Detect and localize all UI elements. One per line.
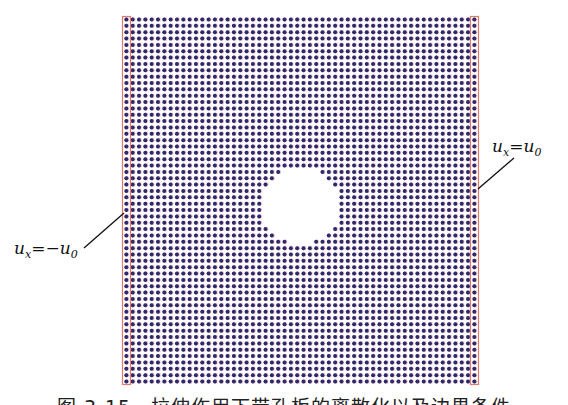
particle	[308, 75, 312, 79]
particle	[238, 303, 242, 307]
particle	[143, 297, 147, 301]
particle	[466, 367, 470, 371]
particle	[124, 81, 128, 85]
left-boundary-condition-label: ux=−u0	[14, 238, 78, 261]
particle	[434, 68, 438, 72]
particle	[358, 87, 362, 91]
particle	[365, 176, 369, 180]
particle	[245, 164, 249, 168]
particle	[213, 208, 217, 212]
particle	[365, 329, 369, 333]
particle	[320, 272, 324, 276]
particle	[289, 373, 293, 377]
particle	[150, 227, 154, 231]
particle	[219, 360, 223, 364]
particle	[314, 303, 318, 307]
particle	[390, 183, 394, 187]
particle	[453, 183, 457, 187]
particle	[207, 252, 211, 256]
particle	[403, 380, 407, 384]
particle	[377, 151, 381, 155]
particle	[232, 195, 236, 199]
particle	[358, 272, 362, 276]
particle	[428, 195, 432, 199]
particle	[327, 113, 331, 117]
particle	[466, 373, 470, 377]
particle	[358, 221, 362, 225]
particle	[137, 87, 141, 91]
particle	[384, 303, 388, 307]
particle	[333, 132, 337, 136]
particle	[276, 329, 280, 333]
particle	[466, 246, 470, 250]
particle	[453, 291, 457, 295]
particle	[320, 151, 324, 155]
particle	[156, 291, 160, 295]
particle	[276, 119, 280, 123]
particle	[207, 30, 211, 34]
particle	[200, 94, 204, 98]
particle	[409, 341, 413, 345]
particle	[143, 329, 147, 333]
particle	[200, 183, 204, 187]
particle	[308, 62, 312, 66]
particle	[308, 151, 312, 155]
particle	[219, 303, 223, 307]
particle	[213, 62, 217, 66]
particle	[428, 354, 432, 358]
particle	[365, 151, 369, 155]
particle	[390, 195, 394, 199]
particle	[339, 341, 343, 345]
particle	[282, 87, 286, 91]
particle	[219, 297, 223, 301]
particle	[213, 87, 217, 91]
particle	[181, 380, 185, 384]
particle	[301, 360, 305, 364]
particle	[466, 208, 470, 212]
particle	[371, 68, 375, 72]
particle	[377, 183, 381, 187]
particle	[169, 335, 173, 339]
particle	[447, 75, 451, 79]
particle	[124, 37, 128, 41]
particle	[409, 259, 413, 263]
particle	[396, 113, 400, 117]
particle	[403, 246, 407, 250]
particle	[377, 291, 381, 295]
particle	[200, 335, 204, 339]
particle	[257, 208, 261, 212]
particle	[415, 316, 419, 320]
particle	[137, 348, 141, 352]
particle	[371, 87, 375, 91]
particle	[143, 81, 147, 85]
particle	[169, 100, 173, 104]
particle	[428, 335, 432, 339]
particle	[453, 56, 457, 60]
particle	[453, 94, 457, 98]
particle	[207, 145, 211, 149]
particle	[358, 310, 362, 314]
particle	[257, 94, 261, 98]
particle	[150, 145, 154, 149]
particle	[194, 303, 198, 307]
particle	[188, 195, 192, 199]
particle	[207, 259, 211, 263]
particle	[314, 94, 318, 98]
particle	[200, 30, 204, 34]
particle	[143, 310, 147, 314]
particle	[232, 246, 236, 250]
particle	[137, 227, 141, 231]
particle	[226, 164, 230, 168]
particle	[428, 367, 432, 371]
particle	[238, 202, 242, 206]
particle	[320, 348, 324, 352]
particle	[365, 75, 369, 79]
particle	[282, 278, 286, 282]
particle	[434, 145, 438, 149]
particle	[346, 335, 350, 339]
particle	[207, 24, 211, 28]
particle	[365, 125, 369, 129]
particle	[358, 202, 362, 206]
particle	[466, 341, 470, 345]
particle	[441, 183, 445, 187]
